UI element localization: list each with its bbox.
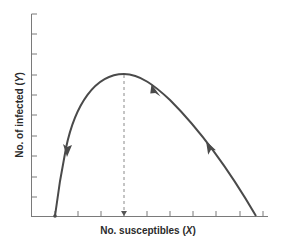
curve-end-dot <box>53 214 57 218</box>
epidemic-curve <box>55 74 256 216</box>
y-axis <box>32 14 38 217</box>
sir-phase-plot <box>0 0 281 245</box>
drop-line-arrowhead <box>121 211 127 216</box>
x-axis-label: No. susceptibles (X) <box>0 225 281 236</box>
y-axis-label: No. of infected (Y) <box>14 72 25 158</box>
x-axis <box>31 211 268 217</box>
